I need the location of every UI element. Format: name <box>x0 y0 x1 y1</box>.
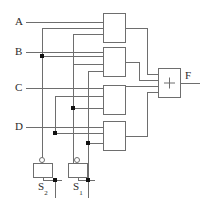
input-wires <box>26 22 103 127</box>
junction-dots <box>40 54 90 182</box>
switch-s1-box[interactable] <box>69 164 88 178</box>
gate-1-box[interactable] <box>104 14 126 43</box>
switch-label-s2-subscript: 2 <box>44 189 48 197</box>
switch-bus-wires <box>42 28 103 180</box>
junction-s1-bottom <box>86 178 90 182</box>
junction-low-right <box>86 141 90 145</box>
wire-gate4-to-adder <box>126 92 159 136</box>
input-label-a: A <box>15 16 23 27</box>
switch-label-s2: S2 <box>38 181 48 195</box>
switch-s2-box[interactable] <box>34 164 53 178</box>
junction-b-s2 <box>40 54 44 58</box>
input-label-c: C <box>15 82 22 93</box>
gate-2-box[interactable] <box>104 48 126 77</box>
summing-block-group <box>159 69 201 98</box>
junction-s2-bottom <box>53 178 57 182</box>
switch-s2-terminal-circle[interactable] <box>40 158 45 163</box>
switch-s1-terminal-circle[interactable] <box>75 158 80 163</box>
logic-circuit-diagram: A B C D F S2 S1 <box>0 0 202 211</box>
junction-mid-c <box>71 106 75 110</box>
circuit-schematic-canvas <box>0 0 202 211</box>
gate-3-box[interactable] <box>104 86 126 115</box>
gate-output-wires <box>126 28 159 136</box>
input-label-b: B <box>15 46 22 57</box>
input-label-d: D <box>15 121 23 132</box>
gate-boxes <box>104 14 126 151</box>
switch-label-s1-subscript: 1 <box>79 189 83 197</box>
output-label-f: F <box>185 70 191 81</box>
wire-gate1-to-adder <box>126 28 159 74</box>
gate-4-box[interactable] <box>104 122 126 151</box>
switch-label-s1: S1 <box>73 181 83 195</box>
junction-d-s2 <box>53 131 57 135</box>
wire-gate2-to-adder <box>126 62 159 80</box>
